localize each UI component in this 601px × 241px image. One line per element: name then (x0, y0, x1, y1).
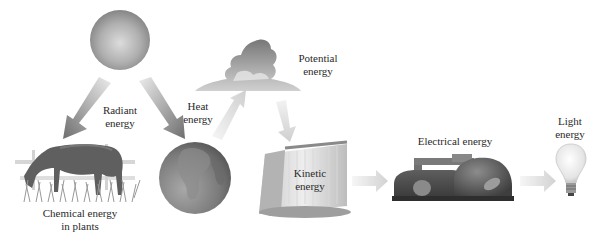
waterfall-to-generator-arrow (352, 170, 388, 192)
kinetic-energy-label: Kinetic energy (288, 167, 332, 193)
light-energy-label: Light energy (550, 115, 590, 141)
chemical-energy-label: Chemical energy in plants (30, 207, 130, 233)
cloud-icon (193, 35, 303, 100)
generator-icon (392, 150, 517, 202)
earth-globe-icon (157, 140, 233, 216)
light-bulb-icon (555, 143, 587, 201)
potential-energy-label: Potential energy (290, 52, 346, 78)
electrical-energy-label: Electrical energy (410, 135, 500, 148)
cloud-to-waterfall-arrow (270, 100, 300, 145)
heat-energy-label: Heat energy (180, 100, 216, 126)
radiant-energy-label: Radiant energy (95, 104, 145, 130)
generator-to-bulb-arrow (520, 170, 556, 192)
sun-icon (88, 8, 152, 72)
horse-grazing-icon (10, 140, 140, 205)
